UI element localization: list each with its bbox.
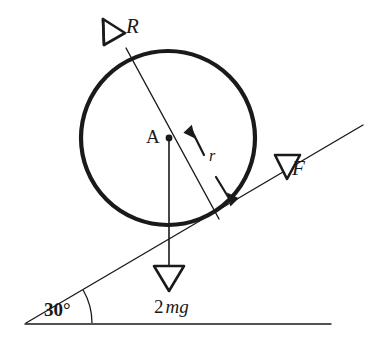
center-point-marker — [166, 135, 173, 142]
applied-force-label: F — [292, 158, 305, 179]
weight-arrowhead-icon — [154, 266, 184, 291]
center-point-label: A — [146, 127, 160, 146]
weight-label: 2mg — [154, 297, 189, 316]
normal-arrowhead-base — [103, 19, 104, 45]
incline-angle-label: 30° — [44, 300, 71, 319]
weight-coefficient: 2 — [154, 296, 166, 317]
radius-label: r — [209, 148, 215, 164]
normal-force-label: R — [126, 16, 139, 37]
physics-diagram: R F A r 2mg 30° — [0, 0, 391, 338]
normal-arrowhead-icon — [103, 19, 125, 45]
angle-arc-icon — [83, 290, 92, 323]
weight-symbol: mg — [166, 296, 189, 317]
diagram-canvas — [0, 0, 391, 338]
